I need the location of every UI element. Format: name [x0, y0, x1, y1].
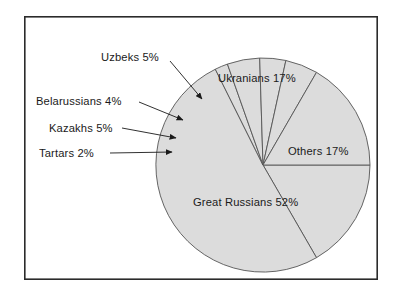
pie-chart-figure: Others 17%Great Russians 52%Tartars 2%Ka… [0, 0, 402, 295]
chart-canvas: Others 17%Great Russians 52%Tartars 2%Ka… [0, 0, 402, 295]
slice-label-others: Others 17% [288, 145, 349, 157]
slice-label-uzbeks: Uzbeks 5% [101, 51, 159, 63]
slice-label-tartars: Tartars 2% [39, 147, 94, 159]
pie-slice-group [156, 58, 370, 272]
slice-label-kazakhs: Kazakhs 5% [49, 122, 113, 134]
slice-label-great-russians: Great Russians 52% [193, 196, 298, 208]
slice-label-ukranians: Ukranians 17% [218, 72, 296, 84]
slice-label-belarussians: Belarussians 4% [36, 95, 122, 107]
